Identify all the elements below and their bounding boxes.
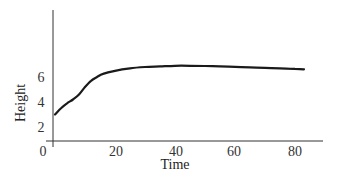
- y-tick-6: 6: [38, 70, 45, 85]
- x-tick-80: 80: [288, 144, 302, 159]
- x-axis-label: Time: [160, 157, 189, 172]
- x-tick-20: 20: [109, 144, 123, 159]
- y-tick-2: 2: [38, 120, 45, 135]
- x-tick-60: 60: [227, 144, 241, 159]
- y-axis-label: Height: [13, 84, 28, 122]
- height-series-line: [55, 66, 304, 115]
- y-tick-0: 0: [40, 144, 47, 159]
- line-chart: 6 4 2 0 20 40 60 80 Time Height: [0, 0, 338, 178]
- y-tick-4: 4: [38, 95, 45, 110]
